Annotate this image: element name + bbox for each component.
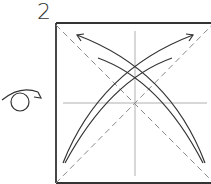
turn-over-icon (2, 90, 41, 111)
fold-unfold-arrow-1 (63, 34, 193, 163)
origami-diagram (0, 0, 211, 184)
fold-unfold-arrow-2 (77, 34, 205, 163)
